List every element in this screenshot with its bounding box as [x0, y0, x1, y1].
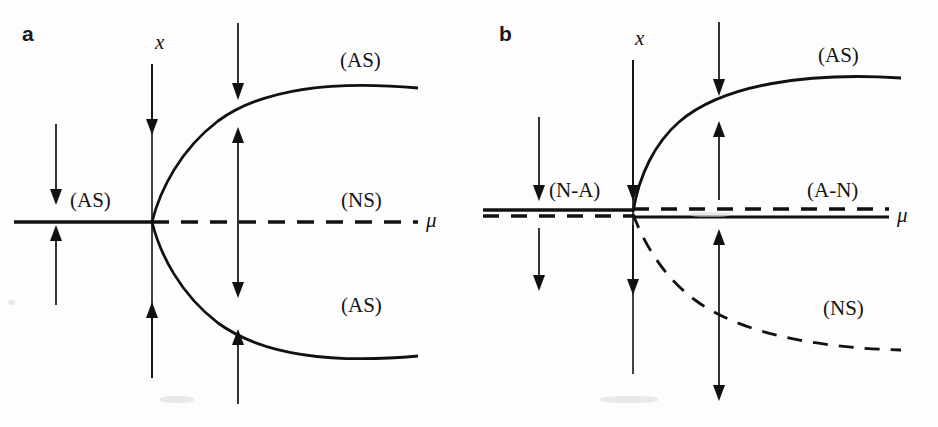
panel-b-right-branch-label: (A-N) — [807, 178, 858, 203]
panel-a-flow-arrow-bottom-up — [232, 329, 244, 404]
panel-a: a — [0, 0, 469, 427]
panel-b-mu-axis-label: μ — [897, 203, 908, 228]
panel-b-flow-arrow-upper-up — [713, 121, 725, 200]
scan-speck — [160, 396, 194, 403]
bifurcation-figure: a — [0, 0, 938, 427]
panel-a-flow-arrow-axis-up — [146, 302, 158, 378]
panel-a-flow-arrow-left-down — [50, 124, 62, 205]
panel-a-flow-arrow-left-up — [50, 225, 62, 305]
panel-a-plot — [0, 0, 469, 427]
panel-a-lower-stable-curve — [152, 222, 418, 359]
panel-a-flow-arrow-inner-double — [232, 127, 244, 298]
panel-a-x-axis-label: x — [155, 30, 164, 55]
panel-b-upper-branch-label: (AS) — [818, 43, 859, 68]
panel-b-flow-arrow-top-down — [713, 22, 725, 96]
panel-a-left-branch-label: (AS) — [70, 188, 111, 213]
panel-b-left-branch-label: (N-A) — [549, 178, 600, 203]
panel-b-flow-arrow-axis-down-lower — [627, 225, 639, 295]
panel-a-mu-axis-label: μ — [426, 208, 437, 233]
panel-b-flow-arrow-left-down-lower — [533, 228, 545, 291]
panel-b-lower-unstable-curve — [633, 214, 901, 350]
panel-b-flow-arrow-axis-down-upper — [627, 60, 639, 201]
panel-a-upper-branch-label: (AS) — [340, 48, 381, 73]
panel-a-flow-arrow-top-down — [232, 23, 244, 100]
scan-speck — [8, 300, 15, 305]
panel-a-flow-arrow-axis-down — [146, 64, 158, 135]
panel-b-flow-arrow-left-down-upper — [533, 117, 545, 201]
panel-b-upper-stable-curve — [633, 77, 901, 212]
scan-speck — [690, 212, 730, 217]
scan-speck — [600, 396, 658, 403]
panel-b-flow-arrow-lower-double — [713, 229, 725, 401]
panel-a-lower-branch-label: (AS) — [341, 293, 382, 318]
panel-b-x-axis-label: x — [635, 26, 644, 51]
panel-b-lower-branch-label: (NS) — [823, 296, 864, 321]
panel-a-middle-branch-label: (NS) — [341, 188, 382, 213]
